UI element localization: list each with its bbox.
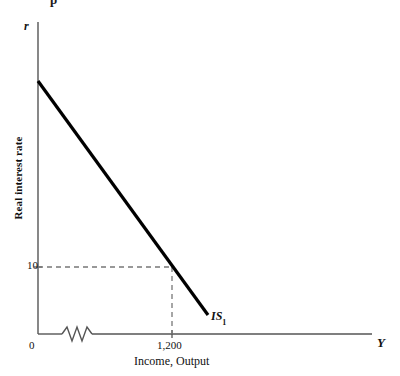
y-axis-symbol-label: r xyxy=(24,20,29,32)
is-curve-figure: p r Real interest rate 10 0 1,200 Income… xyxy=(0,0,400,376)
is-curve-label: IS1 xyxy=(211,310,226,325)
is-curve-label-base: IS xyxy=(211,309,222,323)
y-tick-label-10: 10 xyxy=(27,260,38,271)
x-axis-break-zigzag xyxy=(62,327,92,341)
y-axis-title: Real interest rate xyxy=(10,118,26,238)
is-curve-line xyxy=(38,81,208,315)
x-axis-symbol-label: Y xyxy=(377,336,385,349)
plot-canvas xyxy=(0,0,400,376)
origin-label: 0 xyxy=(29,340,35,351)
x-tick-label-1200: 1,200 xyxy=(157,340,182,351)
is-curve-label-subscript: 1 xyxy=(222,318,226,327)
y-axis-title-text: Real interest rate xyxy=(13,137,24,220)
x-axis-title: Income, Output xyxy=(134,355,209,367)
